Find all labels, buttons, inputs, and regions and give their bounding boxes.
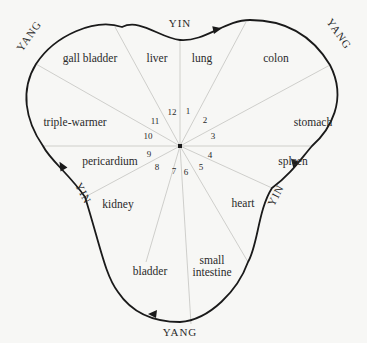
hour-8: 8 [155,162,160,172]
divider-colon-stomach [180,65,330,146]
organ-kidney: kidney [102,198,134,211]
direction-arrows [56,24,299,318]
organ-clock-diagram: YIN YANG YIN YANG YIN YANG liver lung co… [0,0,367,343]
hour-7: 7 [172,166,177,176]
hour-5: 5 [199,162,204,172]
hour-12: 12 [168,107,177,117]
organ-pericardium: pericardium [82,155,138,168]
phase-labels: YIN YANG YIN YANG YIN YANG [14,16,354,338]
divider-triplewarmer-gallbladder [36,64,180,146]
phase-label-upper-left: YANG [14,18,44,53]
organ-stomach: stomach [294,116,333,128]
phase-label-bottom: YANG [163,326,198,338]
divider-gallbladder-liver [115,27,180,146]
organ-labels: liver lung colon stomach spleen heart sm… [43,52,332,278]
hour-2: 2 [203,115,208,125]
organ-colon: colon [263,52,289,64]
phase-label-lower-left: YIN [73,180,94,206]
organ-small-intestine-line1: small [200,254,225,266]
organ-liver: liver [146,52,167,64]
organ-spleen: spleen [278,155,308,168]
center-dot [178,144,182,148]
divider-bladder-kidney [146,146,180,262]
organ-gall-bladder: gall bladder [63,52,118,65]
hour-3: 3 [211,131,216,141]
phase-label-top: YIN [169,17,192,29]
divider-lung-colon [180,22,246,146]
arrow-top-icon [212,24,222,34]
divider-kidney-pericardium [85,146,180,197]
organ-heart: heart [232,197,256,209]
hour-11: 11 [151,116,160,126]
divider-spleen-heart [180,146,272,188]
hour-1: 1 [186,106,191,116]
phase-label-upper-right: YANG [324,16,354,51]
hour-6: 6 [184,167,189,177]
hour-9: 9 [147,149,152,159]
organ-small-intestine-line2: intestine [193,266,232,278]
hour-10: 10 [144,131,154,141]
organ-lung: lung [192,52,213,65]
hour-4: 4 [208,150,213,160]
organ-bladder: bladder [133,265,168,277]
organ-triple-warmer: triple-warmer [43,116,106,129]
